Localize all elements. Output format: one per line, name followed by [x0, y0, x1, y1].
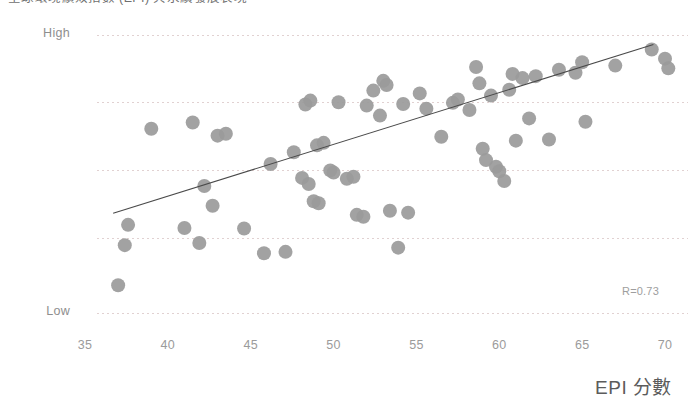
x-axis-tick-label: 60 [479, 338, 519, 352]
data-points [111, 42, 675, 292]
data-point [219, 127, 233, 141]
data-point [144, 122, 158, 136]
data-point [391, 241, 405, 255]
data-point [472, 76, 486, 90]
data-point [257, 246, 271, 260]
x-axis-tick-label: 35 [65, 338, 105, 352]
data-point [192, 236, 206, 250]
data-point [509, 134, 523, 148]
data-point [608, 59, 622, 73]
data-point [356, 210, 370, 224]
x-axis-tick-label: 40 [148, 338, 188, 352]
data-point [332, 95, 346, 109]
x-axis-tick-label: 45 [231, 338, 271, 352]
data-point [661, 61, 675, 75]
data-point [497, 174, 511, 188]
data-point [327, 166, 341, 180]
data-point [380, 78, 394, 92]
gridlines [97, 36, 688, 314]
data-point [279, 245, 293, 259]
data-point [303, 94, 317, 108]
data-point [522, 111, 536, 125]
data-point [111, 278, 125, 292]
x-axis-tick-label: 50 [314, 338, 354, 352]
correlation-annotation: R=0.73 [622, 285, 659, 297]
data-point [118, 238, 132, 252]
chart-container: 全球環境績效指數 (EPI) 與永續發展表現 High Low 35404550… [0, 0, 694, 404]
data-point [360, 99, 374, 113]
data-point [462, 103, 476, 117]
data-point [413, 86, 427, 100]
data-point [578, 115, 592, 129]
x-axis-tick-label: 70 [645, 338, 685, 352]
data-point [346, 170, 360, 184]
data-point [552, 63, 566, 77]
x-axis-tick-label: 65 [562, 338, 602, 352]
data-point [383, 204, 397, 218]
data-point [542, 133, 556, 147]
data-point [401, 206, 415, 220]
data-point [312, 196, 326, 210]
data-point [186, 116, 200, 130]
data-point [177, 221, 191, 235]
data-point [515, 71, 529, 85]
data-point [237, 221, 251, 235]
data-point [121, 218, 135, 232]
data-point [469, 60, 483, 74]
data-point [373, 109, 387, 123]
data-point [206, 199, 220, 213]
data-point [434, 130, 448, 144]
x-axis-title: EPI 分數 [595, 372, 672, 399]
data-point [302, 177, 316, 191]
x-axis-tick-label: 55 [396, 338, 436, 352]
data-point [396, 97, 410, 111]
